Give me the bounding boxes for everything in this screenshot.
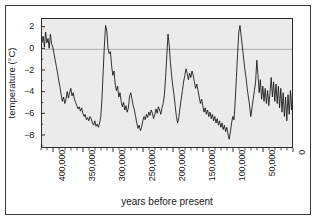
x-axis-tick-labels: 400,000350,000300,000250,000200,000150,0… bbox=[41, 150, 293, 194]
x-tick-label: 200,000 bbox=[177, 150, 187, 181]
y-tick-label: −8 bbox=[24, 131, 34, 140]
plot-area bbox=[41, 18, 293, 148]
x-axis-title: years before present bbox=[41, 196, 293, 207]
x-tick-label: 400,000 bbox=[57, 150, 67, 181]
y-tick-label: −2 bbox=[24, 66, 34, 75]
y-tick-label: 2 bbox=[29, 22, 34, 31]
y-tick-label: 0 bbox=[29, 44, 34, 53]
chart-root: temperature (°C) 20−2−4−6−8 400,000350,0… bbox=[0, 0, 318, 222]
x-tick-label: 150,000 bbox=[207, 150, 217, 181]
y-axis-tick-labels: 20−2−4−6−8 bbox=[0, 18, 38, 148]
x-tick-label: 300,000 bbox=[117, 150, 127, 181]
y-tick-label: −4 bbox=[24, 87, 34, 96]
x-tick-label: 250,000 bbox=[147, 150, 157, 181]
temperature-curve bbox=[42, 26, 293, 140]
x-tick-label: 100,000 bbox=[237, 150, 247, 181]
x-axis-title-text: years before present bbox=[121, 196, 213, 207]
temperature-line-series bbox=[42, 19, 293, 148]
x-tick-label: 350,000 bbox=[87, 150, 97, 181]
y-tick-label: −6 bbox=[24, 109, 34, 118]
x-tick-label: 0 bbox=[297, 150, 307, 155]
x-tick-label: 50,000 bbox=[267, 150, 277, 176]
